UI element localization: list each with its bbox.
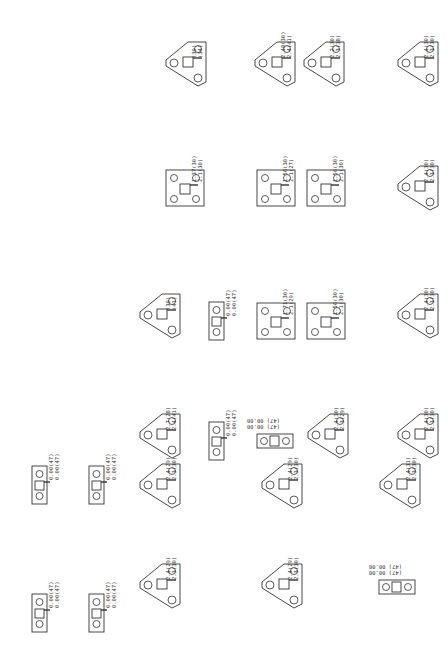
dimension-label: 0.00(47) (231, 410, 237, 437)
dimension-label: 0.00(47) (231, 290, 237, 317)
dimension-label: 2.3(30) (171, 557, 177, 580)
dimension-label: (34) (197, 45, 203, 58)
dimension-label: 0.00(47) (111, 582, 117, 609)
dimension-label: (47) 00.00 (247, 424, 280, 430)
dimension-label: (47) 00.00 (247, 418, 280, 424)
dimension-label: 2.3(30) (429, 407, 435, 430)
dimension-label: 2.3(30) (411, 457, 417, 480)
dimension-label: 0.00(47) (111, 454, 117, 481)
dimension-label: 2.3(38) (335, 35, 341, 58)
slim-bracket-horizontal-outline (378, 578, 418, 596)
dimension-label: (47) 00.00 (369, 570, 402, 576)
dimension-label: 2.4(41) (171, 407, 177, 430)
dimension-label: 2.1(27) (288, 159, 294, 182)
dimension-label: 2.4(41) (286, 35, 292, 58)
dimension-label: 2.3(30) (293, 557, 299, 580)
dimension-label: 2.3(30) (429, 287, 435, 310)
dimension-label: 2.3(30) (429, 35, 435, 58)
dimension-label: 2.1(30) (197, 159, 203, 182)
drawing-canvas: (30)(34) 2.48(30)2.4(41) 2.2(30)2.3(38) … (0, 0, 448, 652)
dimension-label: 0.00(47) (54, 454, 60, 481)
dimension-label: (47) 00.00 (369, 564, 402, 570)
dimension-label: 2.1(30) (338, 159, 344, 182)
dimension-label: 2.3(30) (293, 457, 299, 480)
dimension-label: 0.00(47) (54, 582, 60, 609)
slim-bracket-horizontal-outline (256, 432, 296, 450)
dimension-label: 2.3(30) (429, 159, 435, 182)
dimension-label: 2.3(30) (171, 457, 177, 480)
dimension-label: 2.1(29) (288, 292, 294, 315)
dimension-label: 2.3(29) (339, 407, 345, 430)
dimension-label: 2.1(30) (338, 292, 344, 315)
dimension-label: (41) (171, 297, 177, 310)
